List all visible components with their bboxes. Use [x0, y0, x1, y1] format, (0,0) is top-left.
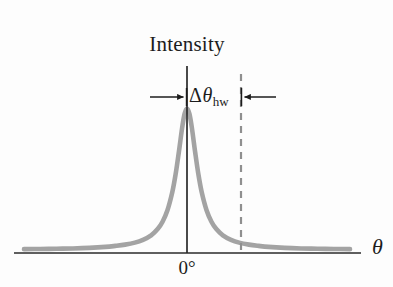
figure-canvas: Intensity θ 0° Δθhw: [0, 0, 393, 287]
intensity-peak-plot: [0, 0, 393, 287]
halfwidth-right-arrow: [241, 88, 276, 106]
halfwidth-left-arrow: [150, 88, 187, 106]
